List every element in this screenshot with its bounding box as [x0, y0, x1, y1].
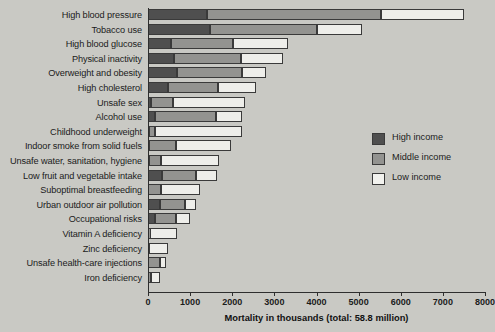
bar-segment-middle-income [162, 170, 196, 181]
bar-segment-low-income [381, 9, 464, 20]
category-label: Physical inactivity [72, 52, 142, 66]
legend-label-middle-income: Middle income [392, 152, 451, 162]
legend-item-middle-income: Middle income [372, 151, 484, 168]
x-tick [443, 292, 444, 296]
category-label: Indoor smoke from solid fuels [25, 139, 142, 153]
x-tick-label: 4000 [306, 297, 326, 307]
bar-segment-low-income [216, 111, 242, 122]
x-tick [401, 292, 402, 296]
bar-segment-middle-income [210, 24, 318, 35]
category-label: Occupational risks [69, 212, 142, 226]
category-label: Overweight and obesity [48, 66, 142, 80]
legend-label-low-income: Low income [392, 172, 441, 182]
legend-swatch-middle-income [372, 153, 385, 165]
bar-segment-low-income [317, 24, 362, 35]
category-label: Alcohol use [96, 110, 142, 124]
category-label: Low fruit and vegetable intake [23, 169, 142, 183]
legend-label-high-income: High income [392, 132, 443, 142]
category-label: Childhood underweight [50, 125, 142, 139]
category-label: Urban outdoor air pollution [36, 198, 142, 212]
x-tick [190, 292, 191, 296]
x-tick-label: 8000 [475, 297, 495, 307]
category-label: Unsafe health-care injections [26, 256, 142, 270]
x-tick-label: 2000 [222, 297, 242, 307]
bar-segment-middle-income [148, 257, 160, 268]
bar-segment-high-income [148, 170, 162, 181]
x-tick [317, 292, 318, 296]
bar-segment-middle-income [174, 53, 241, 64]
y-axis-line [148, 8, 149, 293]
bar-segment-low-income [150, 228, 177, 239]
legend-swatch-high-income [372, 133, 385, 145]
category-label: High cholesterol [78, 81, 142, 95]
x-tick-label: 5000 [349, 297, 369, 307]
category-label: Suboptimal breastfeeding [40, 183, 142, 197]
bar-segment-high-income [148, 199, 160, 210]
bar-segment-middle-income [151, 97, 174, 108]
x-tick [232, 292, 233, 296]
x-tick [148, 292, 149, 296]
bar-segment-low-income [176, 140, 230, 151]
bar-segment-high-income [148, 24, 210, 35]
bar-segment-middle-income [207, 9, 381, 20]
x-axis-title: Mortality in thousands (total: 58.8 mill… [148, 313, 485, 323]
category-axis-labels: High blood pressureTobacco useHigh blood… [0, 8, 145, 292]
x-tick [359, 292, 360, 296]
bar-segment-low-income [241, 53, 283, 64]
bar-segment-high-income [148, 213, 155, 224]
bar-segment-low-income [161, 155, 219, 166]
bar-segment-middle-income [160, 199, 185, 210]
bar-segment-low-income [196, 170, 217, 181]
bar-segment-low-income [151, 272, 160, 283]
category-label: High blood pressure [62, 8, 142, 22]
legend-swatch-low-income [372, 173, 385, 185]
bar-segment-middle-income [168, 82, 219, 93]
bar-segment-low-income [176, 213, 190, 224]
bar-segment-low-income [173, 97, 245, 108]
bar-segment-low-income [185, 199, 195, 210]
category-label: Tobacco use [92, 23, 142, 37]
bar-segment-low-income [233, 38, 288, 49]
legend: High income Middle income Low income [372, 131, 484, 191]
x-tick-label: 1000 [180, 297, 200, 307]
bar-segment-middle-income [155, 111, 217, 122]
category-label: Zinc deficiency [83, 242, 142, 256]
bar-segment-middle-income [171, 38, 233, 49]
bar-segment-low-income [242, 67, 267, 78]
bar-segment-low-income [218, 82, 256, 93]
bar-segment-middle-income [149, 155, 161, 166]
x-tick-label: 7000 [433, 297, 453, 307]
bar-segment-low-income [160, 257, 166, 268]
x-tick-label: 0 [145, 297, 150, 307]
bar-segment-low-income [161, 184, 200, 195]
category-label: Unsafe sex [97, 96, 142, 110]
x-tick [485, 292, 486, 296]
category-label: Vitamin A deficiency [62, 227, 142, 241]
bar-segment-high-income [148, 9, 207, 20]
x-tick-label: 6000 [391, 297, 411, 307]
bar-segment-high-income [148, 67, 177, 78]
bar-segment-middle-income [149, 140, 176, 151]
bar-segment-high-income [148, 38, 171, 49]
bar-segment-low-income [155, 126, 242, 137]
bar-segment-middle-income [177, 67, 241, 78]
category-label: High blood glucose [66, 37, 142, 51]
x-tick-label: 3000 [264, 297, 284, 307]
x-tick [274, 292, 275, 296]
legend-item-high-income: High income [372, 131, 484, 148]
bar-segment-low-income [149, 243, 168, 254]
bar-segment-high-income [148, 82, 168, 93]
bar-segment-high-income [148, 111, 155, 122]
bar-segment-high-income [148, 53, 174, 64]
category-label: Iron deficiency [84, 271, 142, 285]
bar-segment-middle-income [148, 184, 160, 195]
legend-item-low-income: Low income [372, 171, 484, 188]
category-label: Unsafe water, sanitation, hygiene [10, 154, 142, 168]
bar-segment-middle-income [155, 213, 176, 224]
